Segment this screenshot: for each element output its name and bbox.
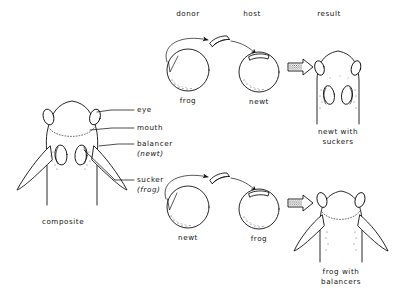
composite-sucker-right (74, 144, 88, 165)
donor-embryo-top (167, 49, 209, 91)
donor-label-top: frog (180, 96, 197, 105)
composite-label-sucker: sucker (137, 175, 164, 184)
composite-caption: composite (42, 217, 84, 226)
column-header-result: result (317, 9, 341, 18)
host-embryo-bottom (239, 189, 279, 229)
row-top: frog newt (166, 36, 362, 146)
host-label-bottom: frog (251, 234, 268, 243)
composite-label-mouth: mouth (137, 123, 163, 132)
embryo-transplantation-diagram: donor host result (0, 0, 411, 294)
composite-label-eye: eye (137, 105, 152, 114)
host-embryo-top (239, 52, 279, 92)
column-header-host: host (243, 9, 261, 18)
result-sucker-left-top (322, 85, 336, 105)
result-arrow-top (288, 59, 313, 75)
donor-embryo-bottom (167, 186, 209, 228)
column-header-donor: donor (176, 9, 200, 18)
result-balancer-right (358, 215, 388, 251)
composite-label-sucker-species: (frog) (137, 185, 160, 194)
composite-eye-left (41, 108, 55, 126)
graft-tissue-block-bottom (210, 173, 230, 184)
host-label-top: newt (249, 97, 269, 106)
transplant-arrow-host-bottom (231, 178, 256, 191)
graft-tissue-block-top (210, 36, 230, 47)
result-sucker-right-top (340, 85, 354, 105)
result-head-top (313, 51, 362, 124)
donor-label-bottom: newt (178, 233, 198, 242)
composite-mouth-line (50, 128, 94, 136)
result-label-bottom-line2: balancers (321, 277, 361, 286)
composite-eye-right (88, 108, 102, 126)
composite-sucker-left (54, 144, 68, 165)
composite-head-drawing (17, 101, 127, 205)
result-balancer-left (294, 215, 324, 251)
result-label-bottom-line1: frog with (323, 267, 360, 276)
composite-label-balancer-species: (newt) (137, 149, 164, 158)
row-bottom: newt frog (165, 173, 388, 286)
result-label-top-line1: newt with (318, 127, 358, 136)
result-arrow-bottom (288, 195, 313, 211)
transplant-arrow-host-top (231, 41, 256, 54)
result-label-top-line2: suckers (322, 137, 353, 146)
composite-label-balancer: balancer (137, 139, 173, 148)
